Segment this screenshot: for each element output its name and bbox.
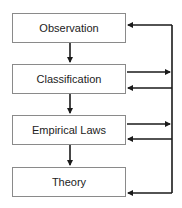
connector-arrows (0, 0, 182, 208)
flowchart-diagram: Observation Classification Empirical Law… (0, 0, 182, 208)
